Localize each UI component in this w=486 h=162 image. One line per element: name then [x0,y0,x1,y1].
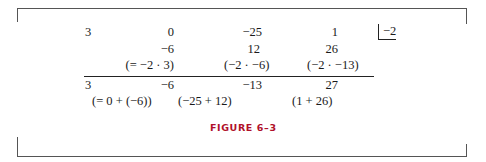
result-4: 27 [300,78,338,92]
sum-rule [84,76,374,77]
sum-note-3: (1 + 26) [292,94,332,108]
product-note-2: (−2 · −6) [224,58,269,72]
product-1: −6 [130,42,174,56]
product-3: 26 [300,42,338,56]
result-3: −13 [222,78,262,92]
coefficient-4: 1 [300,25,338,39]
synthetic-divisor: −2 [378,24,396,40]
coefficient-3: −25 [222,25,262,39]
result-1: 3 [85,78,91,92]
product-note-1: (= −2 · 3) [100,58,174,72]
frame-bottom-left-tick [17,137,18,157]
frame-bottom-right-tick [466,144,467,157]
frame-top-left-tick [17,8,18,22]
coefficient-2: 0 [140,25,174,39]
product-note-3: (−2 · −13) [307,58,359,72]
sum-note-2: (−25 + 12) [178,94,232,108]
product-2: 12 [222,42,260,56]
result-2: −6 [130,78,174,92]
figure-caption: FIGURE 6–3 [210,122,277,133]
coefficient-1: 3 [85,25,91,39]
frame-top-right-tick [466,8,467,24]
frame-top-border [17,8,467,9]
sum-note-1: (= 0 + (−6)) [92,94,152,108]
frame-bottom-border [17,156,467,157]
